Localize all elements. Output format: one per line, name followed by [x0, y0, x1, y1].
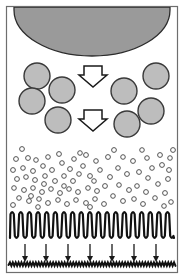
bubble [88, 174, 93, 179]
bubble [11, 203, 16, 208]
bubble [169, 200, 174, 205]
bubble [145, 156, 150, 161]
bubble [95, 189, 100, 194]
bubble [57, 152, 62, 157]
bubble [40, 190, 45, 195]
bubble [21, 166, 26, 171]
bubble [62, 174, 67, 179]
particle [19, 88, 45, 114]
bubble [84, 201, 89, 206]
bubble [71, 179, 76, 184]
bubble [78, 151, 83, 156]
bubble [146, 176, 151, 181]
bubble [34, 158, 39, 163]
bubble [140, 148, 145, 153]
bubble [150, 166, 155, 171]
bubble [94, 159, 99, 164]
particle [49, 77, 75, 103]
bubble [86, 186, 91, 191]
particle [143, 63, 169, 89]
bubble [36, 205, 41, 210]
bubble [102, 202, 107, 207]
bubble [106, 155, 111, 160]
bubble [67, 187, 72, 192]
bubble [98, 168, 103, 173]
diagram-canvas [0, 0, 185, 280]
bubble [77, 172, 82, 177]
bubble [43, 174, 48, 179]
bubble [17, 196, 22, 201]
bubble [158, 153, 163, 158]
bubble [58, 191, 63, 196]
bubble [60, 161, 65, 166]
bubble [127, 188, 132, 193]
bubble [84, 153, 89, 158]
bubble [11, 168, 16, 173]
bubble [121, 155, 126, 160]
bubble [72, 157, 77, 162]
bubble [81, 164, 86, 169]
bubble [125, 172, 130, 177]
bubble [144, 190, 149, 195]
bubble [68, 167, 73, 172]
bubble [162, 204, 167, 209]
bubble [27, 199, 32, 204]
bubble [117, 183, 122, 188]
bubble [41, 164, 46, 169]
bubble [153, 196, 158, 201]
bubble [22, 188, 27, 193]
bubble [26, 156, 31, 161]
bubble [111, 194, 116, 199]
bubble [141, 202, 146, 207]
bubble [46, 155, 51, 160]
bubble [49, 187, 54, 192]
bubble [31, 169, 36, 174]
bubble [29, 194, 34, 199]
bubble [31, 186, 36, 191]
bubble [131, 159, 136, 164]
bubble [171, 148, 176, 153]
bubble [92, 179, 97, 184]
bubble [166, 177, 171, 182]
bubble [37, 197, 42, 202]
bubble [112, 148, 117, 153]
bubble [135, 184, 140, 189]
bubble [65, 202, 70, 207]
particle [138, 98, 164, 124]
process-diagram-figure [0, 0, 185, 280]
particle [114, 111, 140, 137]
bubble [167, 168, 172, 173]
bubble [160, 163, 165, 168]
bubble [15, 177, 20, 182]
bubble [74, 198, 79, 203]
bubble [62, 184, 67, 189]
particle [111, 78, 137, 104]
bubble [116, 166, 121, 171]
bubble [14, 157, 19, 162]
bubble [156, 182, 161, 187]
bubble [168, 156, 173, 161]
bubble [20, 147, 25, 152]
bubble [103, 184, 108, 189]
bubble [33, 178, 38, 183]
bubble [93, 197, 98, 202]
bubble [121, 199, 126, 204]
particle [24, 63, 50, 89]
bubble [163, 191, 168, 196]
particle [45, 107, 71, 133]
bubble [137, 170, 142, 175]
bubble [46, 201, 51, 206]
bubble [24, 175, 29, 180]
bubble [56, 198, 61, 203]
bubble [88, 205, 93, 210]
bubble [53, 179, 58, 184]
bubble [76, 190, 81, 195]
bubble [132, 197, 137, 202]
bubble [42, 182, 47, 187]
bubble [108, 175, 113, 180]
bubble [12, 186, 17, 191]
bubble [50, 168, 55, 173]
